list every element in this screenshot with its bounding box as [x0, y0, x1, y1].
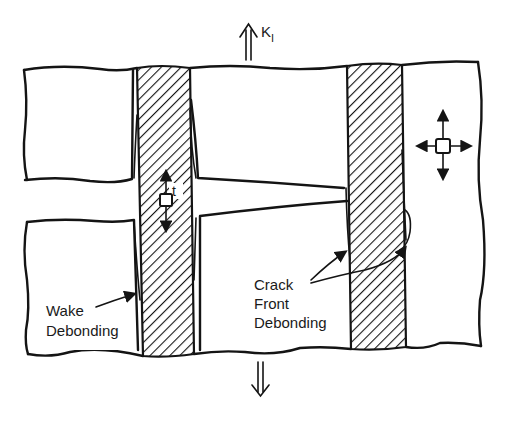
- fiber-bridging-diagram: KI t W: [0, 0, 507, 423]
- fiber-stress-label: t: [172, 183, 176, 199]
- crack-label-line3: Debonding: [254, 314, 327, 331]
- element-square-icon: [160, 194, 172, 206]
- wake-label-line2: Debonding: [46, 322, 119, 339]
- stress-intensity-label: KI: [261, 23, 274, 44]
- specimen-top-edge: [24, 61, 478, 70]
- middle-matrix-crack-upper-face: [191, 100, 344, 188]
- wake-debond-gap-left: [134, 115, 137, 178]
- crack-label-line2: Front: [254, 295, 290, 312]
- top-load-arrow: [240, 24, 257, 60]
- biaxial-stress-element: [418, 112, 470, 178]
- bottom-load-arrow: [252, 362, 269, 396]
- crack-label-line1: Crack: [254, 276, 294, 293]
- wake-debond-gap-right-lower: [194, 218, 196, 280]
- element-square-icon: [436, 139, 450, 153]
- left-matrix-crack-upper-face: [25, 70, 133, 182]
- specimen-right-edge: [478, 62, 484, 346]
- right-fiber: [347, 64, 406, 350]
- wake-label-line1: Wake: [46, 302, 84, 319]
- double-down-arrow-icon: [252, 385, 269, 396]
- specimen-left-edge: [24, 70, 28, 354]
- double-up-arrow-icon: [240, 24, 257, 37]
